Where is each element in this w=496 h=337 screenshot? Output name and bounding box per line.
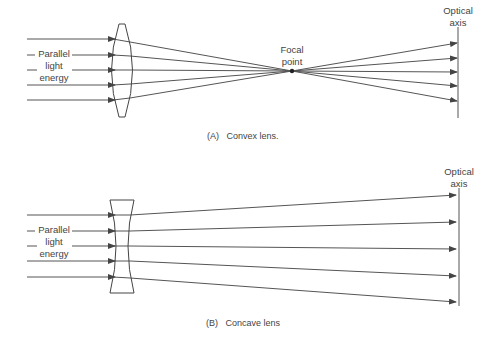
label-line-1: Focal: [272, 44, 312, 56]
lens-diagrams: [0, 0, 496, 337]
parallel-light-label-b: Parallel light energy: [34, 224, 74, 260]
optical-axis-label-b: Optical axis: [437, 166, 481, 190]
label-line-2: point: [272, 56, 312, 68]
focal-point-dot: [290, 69, 294, 73]
label-line-1: Optical: [437, 166, 481, 178]
label-line-2: light: [34, 236, 74, 248]
focal-point-label: Focal point: [272, 44, 312, 68]
label-line-2: light: [34, 60, 74, 72]
label-line-2: axis: [436, 17, 480, 29]
optical-axis-label-a: Optical axis: [436, 5, 480, 29]
caption-convex: (A) Convex lens.: [207, 131, 279, 141]
label-line-1: Parallel: [34, 224, 74, 236]
label-line-3: energy: [34, 248, 74, 260]
parallel-light-label-a: Parallel light energy: [34, 48, 74, 84]
label-line-1: Optical: [436, 5, 480, 17]
concave-lens-diagram: [27, 188, 459, 306]
label-line-3: energy: [34, 72, 74, 84]
label-line-1: Parallel: [34, 48, 74, 60]
label-line-2: axis: [437, 178, 481, 190]
convex-lens-diagram: [27, 24, 458, 118]
caption-concave: (B) Concave lens: [206, 318, 280, 328]
